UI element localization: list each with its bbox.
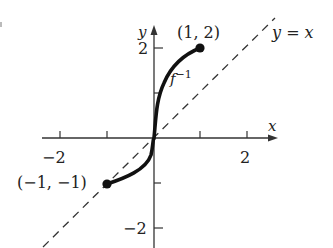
x-tick-label-neg2: −2 (42, 148, 66, 167)
curve-label: f−1 (169, 68, 192, 88)
y-tick-label-neg2: −2 (123, 219, 147, 238)
start-point-dot (102, 179, 111, 188)
y-equals-x-line (43, 18, 275, 247)
start-point-label: (−1, −1) (17, 173, 87, 192)
end-point-dot (195, 43, 204, 52)
x-axis-label: x (268, 117, 277, 135)
edge-artifact (0, 22, 2, 27)
inverse-function-graph: y x −2 2 2 −2 (1, 2) (−1, −1) f−1 y = x (0, 0, 333, 248)
plot-canvas: y x −2 2 2 −2 (1, 2) (−1, −1) f−1 y = x (0, 0, 333, 248)
curve-label-superscript: −1 (176, 68, 192, 81)
reference-line-label: y = x (271, 23, 314, 42)
end-point-label: (1, 2) (177, 23, 220, 42)
x-tick-label-2: 2 (240, 148, 250, 167)
x-axis-arrow-icon (268, 135, 278, 142)
y-axis-arrow-icon (151, 25, 158, 35)
y-tick-label-2: 2 (138, 39, 148, 58)
